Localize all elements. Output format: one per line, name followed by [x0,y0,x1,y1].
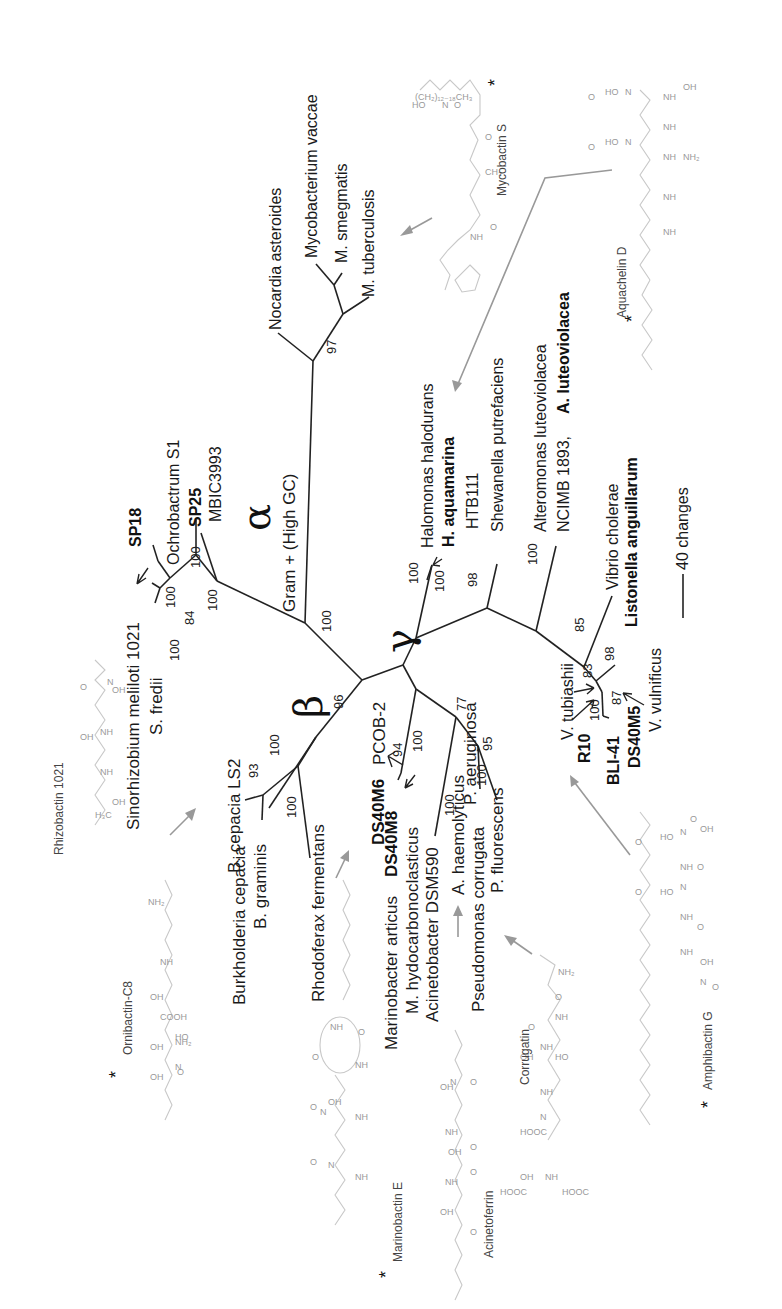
svg-text:OH: OH [700,957,714,967]
svg-text:COOH: COOH [160,1012,187,1022]
taxon-mbic3993: MBIC3993 [207,446,224,522]
svg-text:O: O [635,837,642,847]
svg-text:NH: NH [445,1127,458,1137]
alpha-label: α [233,504,279,531]
taxon-m-tuberculosis: M. tuberculosis [360,189,377,297]
corrugatin-structure: NH₂O NHO NHOH HONH NHOOC OHNH HOOCHOOC C… [500,955,590,1197]
svg-text:NH: NH [663,192,676,202]
mycobactin-star: * [485,79,505,86]
bootstrap-100: 100 [406,562,421,584]
bootstrap-85: 85 [572,618,587,632]
svg-text:O: O [358,1027,365,1037]
svg-text:NH: NH [100,727,113,737]
bootstrap-100: 100 [267,734,282,756]
svg-text:(CH₂)₁₂₋₁₈CH₃: (CH₂)₁₂₋₁₈CH₃ [415,92,473,102]
svg-text:OH: OH [520,1172,534,1182]
svg-text:O: O [712,982,719,992]
svg-text:HO: HO [660,887,674,897]
svg-text:NH₂: NH₂ [683,152,700,162]
taxon-m-smegmatis: M. smegmatis [333,163,350,263]
svg-text:O: O [555,992,562,1002]
svg-text:N: N [680,882,687,892]
bootstrap-100: 100 [167,639,182,661]
svg-text:NH: NH [680,912,693,922]
taxon-v-vulnificus: V. vulnificus [647,648,664,732]
svg-text:OH: OH [112,685,126,695]
svg-text:N: N [680,827,687,837]
taxon-listonella: Listonella anguillarum [623,457,640,627]
bootstrap-83: 83 [580,664,595,678]
arrow-sp18 [137,568,148,584]
svg-text:NH₂: NH₂ [558,967,575,977]
svg-text:O: O [635,887,642,897]
taxon-htb111: HTB111 [464,473,481,529]
taxon-pseudomonas-corrugata: Pseudomonas corrugata [469,826,488,1012]
svg-text:O: O [312,1052,319,1062]
scale-bar: 40 changes [674,487,691,618]
svg-text:OH: OH [328,1097,342,1107]
taxon-h-aquamarina: H. aquamarina [440,437,457,547]
svg-text:O: O [588,142,595,152]
bootstrap-100: 100 [432,570,447,592]
svg-text:OH: OH [112,797,126,807]
svg-text:O: O [690,814,697,824]
taxon-rhodoferax: Rhodoferax fermentans [309,824,328,1002]
beta-label: β [285,695,331,718]
bootstrap-100: 100 [410,730,425,752]
bootstrap-98: 98 [465,573,480,587]
svg-text:NH: NH [545,1172,558,1182]
svg-text:HO: HO [660,832,674,842]
taxon-s-fredii: S. fredii [147,677,166,735]
svg-text:NH: NH [663,152,676,162]
svg-text:NH: NH [355,1172,368,1182]
bootstrap-100: 100 [188,546,203,568]
svg-text:H₃C: H₃C [95,810,112,820]
svg-text:O: O [697,922,704,932]
taxon-m-hydrocarbonoclasticus: M. hydocarbonoclasticus [403,827,422,1014]
amphibactin-star: * [698,1101,718,1108]
gamma-label: γ [376,629,422,653]
svg-text:HOOC: HOOC [520,1127,548,1137]
taxa-labels: Nocardia asteroides Mycobacterium vaccae… [124,94,664,1050]
taxon-v-tubiashii: V. tubiashii [559,663,576,740]
taxon-acinetobacter: Acinetobacter DSM590 [423,847,442,1022]
svg-text:NH: NH [540,1087,553,1097]
svg-text:NH₂: NH₂ [148,897,165,907]
svg-text:NH: NH [445,1177,458,1187]
svg-text:OH: OH [440,1207,454,1217]
svg-text:N: N [320,1107,327,1117]
bootstrap-87: 87 [609,691,624,705]
taxon-shewanella: Shewanella putrefaciens [489,358,506,532]
svg-text:NH: NH [540,1042,553,1052]
svg-text:NH: NH [555,1012,568,1022]
taxon-marinobacter-articus: Marinobacter articus [382,896,401,1050]
svg-text:NH: NH [680,947,693,957]
taxon-ds40m5: DS40M5 [626,706,643,768]
rhizobactin-label: Rhizobactin 1021 [52,762,66,855]
aquachelin-star: * [622,315,642,322]
svg-text:O: O [177,1067,184,1077]
bootstrap-96: 96 [331,695,346,709]
taxon-burkholderia-cepacia: Burkholderia cepacia [230,846,249,1005]
svg-text:O: O [470,1167,477,1177]
svg-text:OH: OH [150,1042,164,1052]
svg-text:NH: NH [680,862,693,872]
svg-text:O: O [470,1142,477,1152]
bootstrap-100: 100 [319,610,334,632]
svg-text:NH: NH [470,232,483,242]
bootstrap-100: 100 [587,699,602,721]
svg-text:OH: OH [448,1147,462,1157]
svg-text:NH: NH [100,767,113,777]
bootstrap-100: 100 [163,586,178,608]
svg-text:OH: OH [150,1072,164,1082]
acinetoferrin-label: Acinetoferrin [482,1191,496,1258]
taxon-myco-vaccae: Mycobacterium vaccae [303,94,320,258]
svg-text:N: N [540,1112,547,1122]
svg-text:NH: NH [663,92,676,102]
rhizobactin-structure: ONOH NHOH NHOH H₃C Rhizobactin 1021 [52,660,126,855]
arrow-ds40m8 [405,775,415,788]
bootstrap-95: 95 [480,737,495,751]
marinobactin-star: * [376,1271,396,1278]
ornibactin-structure: NH₂NH OHCOOH NH₂OH HON OHO Ornibactin-C8… [106,880,192,1120]
svg-text:HO: HO [605,137,619,147]
